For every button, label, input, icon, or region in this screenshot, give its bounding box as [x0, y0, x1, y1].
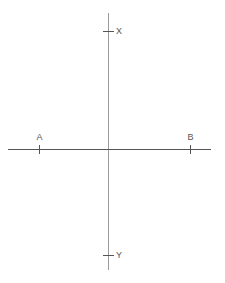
label-b: B — [187, 132, 193, 142]
figure-canvas: X Y A B — [0, 0, 225, 283]
label-y: Y — [116, 250, 122, 260]
label-a: A — [36, 132, 42, 142]
label-x: X — [116, 26, 122, 36]
axes-diagram: X Y A B — [0, 0, 225, 283]
